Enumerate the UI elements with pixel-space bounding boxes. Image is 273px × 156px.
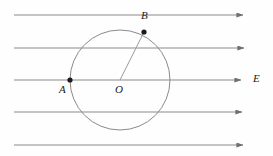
field-diagram: A B O E — [0, 0, 273, 156]
point-label-b: B — [141, 10, 148, 21]
center-label-o: O — [115, 84, 123, 95]
field-lines-group — [14, 15, 244, 145]
field-label-e: E — [253, 73, 260, 84]
diagram-canvas — [0, 0, 273, 156]
point-label-a: A — [59, 84, 66, 95]
radius-segment-ob — [120, 32, 144, 80]
point-dot-a — [67, 77, 72, 82]
point-dot-b — [141, 29, 146, 34]
